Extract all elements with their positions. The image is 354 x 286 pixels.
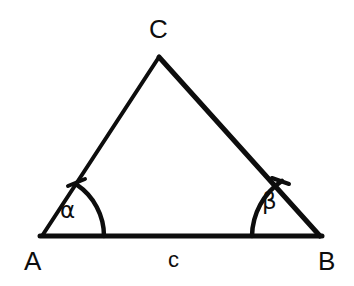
angle-label-beta: β bbox=[262, 190, 277, 213]
vertex-label-a: A bbox=[24, 248, 41, 274]
side-bc-line bbox=[159, 57, 320, 236]
side-label-c: c bbox=[168, 249, 179, 271]
triangle-figure: C A B c α β bbox=[0, 0, 354, 286]
angle-label-alpha: α bbox=[60, 199, 75, 222]
angle-arc-alpha bbox=[77, 185, 104, 236]
triangle-canvas bbox=[0, 0, 354, 286]
vertex-label-b: B bbox=[318, 248, 335, 274]
vertex-label-c: C bbox=[149, 16, 168, 42]
